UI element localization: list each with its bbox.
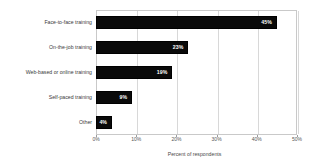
bar-row: Face-to-face training45% <box>96 16 297 30</box>
category-label: On-the-job training <box>49 45 92 50</box>
bar[interactable]: 23% <box>96 41 188 55</box>
bar-value-label: 45% <box>261 20 276 25</box>
bar-row: On-the-job training23% <box>96 41 297 55</box>
x-tick-label: 30% <box>212 137 222 142</box>
bar-row: Other4% <box>96 116 297 130</box>
x-tick-label: 0% <box>92 137 99 142</box>
x-axis-title: Percent of respondents <box>0 152 315 157</box>
bar[interactable]: 4% <box>96 116 112 130</box>
bar-chart: Percent of respondents Face-to-face trai… <box>0 0 315 168</box>
x-tick-label: 40% <box>252 137 262 142</box>
bar-row: Self-paced training9% <box>96 91 297 105</box>
bar-value-label: 9% <box>119 95 131 100</box>
category-label: Web-based or online training <box>26 70 92 75</box>
gridline <box>298 11 299 134</box>
category-label: Face-to-face training <box>44 20 92 25</box>
bar-value-label: 23% <box>173 45 188 50</box>
x-tick-label: 20% <box>171 137 181 142</box>
bar-value-label: 19% <box>157 70 172 75</box>
bar[interactable]: 19% <box>96 66 172 80</box>
category-label: Other <box>79 120 92 125</box>
bar-value-label: 4% <box>99 120 111 125</box>
x-tick-label: 10% <box>131 137 141 142</box>
bar-row: Web-based or online training19% <box>96 66 297 80</box>
x-axis-title-text: Percent of respondents <box>168 152 222 157</box>
x-tick-label: 50% <box>292 137 302 142</box>
category-label: Self-paced training <box>49 95 92 100</box>
bar[interactable]: 45% <box>96 16 277 30</box>
bar[interactable]: 9% <box>96 91 132 105</box>
